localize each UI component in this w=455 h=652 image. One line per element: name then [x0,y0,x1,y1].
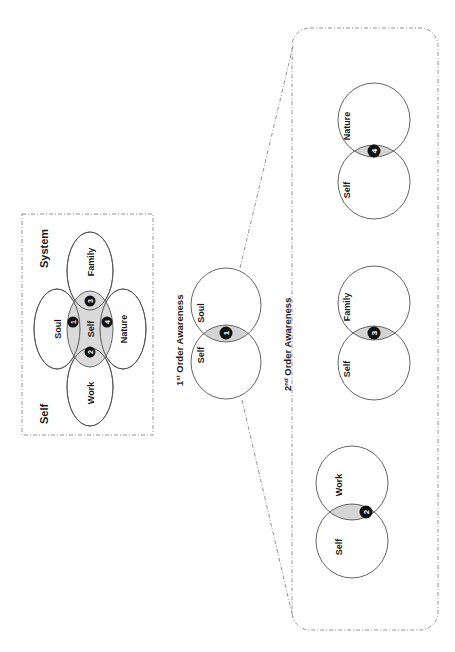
svg-text:1: 1 [222,330,231,335]
badge-4-second-order: 4 [370,148,379,153]
svg-text:4: 4 [104,320,111,324]
first-order-title: 1st Order Awareness [174,295,185,386]
diagram-canvas: Self System Soul Work Family Nature Self… [0,0,455,652]
first-order-left-label: Self [196,346,206,364]
badge-1-first-order: 1 [220,327,233,340]
pair-self-nature: Nature Self 4 [338,83,410,219]
petal-label-nature: Nature [119,315,129,344]
projection-line-upper [240,46,293,268]
projection-line-lower [242,400,293,618]
pair-3-right-label: Family [342,293,352,322]
svg-text:2: 2 [87,350,94,354]
svg-text:1: 1 [70,320,77,324]
badge-3: 3 [85,296,96,307]
self-system-panel: Self System Soul Work Family Nature Self… [22,214,153,435]
pair-2-right-label: Work [334,473,344,496]
pair-self-family: Family Self 3 [338,266,410,400]
panel-title-self: Self [38,403,50,424]
petal-label-family: Family [86,248,96,277]
svg-text:3: 3 [87,299,94,303]
pair-4-right-label: Nature [342,112,352,141]
second-order-title: 2nd Order Awareness [282,298,293,391]
badge-4: 4 [102,317,113,328]
badge-2: 2 [85,347,96,358]
pair-self-work: Work Self 2 [316,446,388,578]
badge-3-second-order: 3 [370,330,379,335]
first-order-right-label: Soul [196,303,206,323]
badge-1: 1 [68,317,79,328]
first-order-awareness: 1st Order Awareness Soul Self 1 [174,268,261,399]
pair-2-left-label: Self [334,538,344,556]
petal-label-soul: Soul [53,319,63,339]
pair-4-left-label: Self [342,181,352,199]
panel-title-system: System [38,229,50,268]
center-label-self: Self [86,320,96,338]
badge-2-second-order: 2 [362,509,371,514]
second-order-awareness: 2nd Order Awareness Work Self 2 Family S… [282,28,438,630]
petal-label-work: Work [86,381,96,404]
pair-3-left-label: Self [342,360,352,378]
